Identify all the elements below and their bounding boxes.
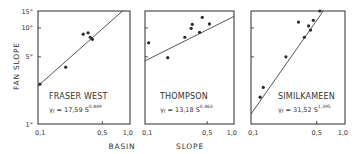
data-point xyxy=(259,96,262,99)
data-point xyxy=(307,24,310,27)
y-tick-label: 10° xyxy=(21,24,33,32)
data-point xyxy=(86,31,89,34)
data-point xyxy=(303,36,306,39)
x-tick-label: 0,5 xyxy=(312,129,322,137)
data-point xyxy=(318,9,321,12)
x-axis-title-slope: SLOPE xyxy=(176,142,204,151)
data-point xyxy=(147,41,150,44)
regression-line xyxy=(141,16,234,63)
panel-title: SIMILKAMEEN xyxy=(278,92,335,101)
data-point xyxy=(208,22,211,25)
panel-thompson: 0,10,51,0THOMPSONγf = 13,18 S0,463 xyxy=(141,11,237,137)
data-point xyxy=(38,83,41,86)
y-tick-label: 15° xyxy=(21,8,33,16)
data-point xyxy=(91,38,94,41)
data-point xyxy=(190,27,193,30)
y-axis-title: FAN SLOPE xyxy=(12,42,21,90)
y-tick-label: 5° xyxy=(26,53,33,61)
x-tick-label: 0,5 xyxy=(97,129,107,137)
panel-similkameen: 0,10,51,0SIMILKAMEENγf = 31,52 S1,395 xyxy=(247,0,348,137)
data-point xyxy=(201,16,204,19)
x-tick-label: 1,0 xyxy=(123,129,133,137)
data-point xyxy=(183,36,186,39)
data-point xyxy=(64,66,67,69)
figure-canvas: 0,10,51,0FRASER WESTγf = 17,59 S0,8490,1… xyxy=(0,0,360,154)
panel-equation: γf = 31,52 S1,395 xyxy=(278,104,331,114)
data-point xyxy=(297,20,300,23)
panel-equation: γf = 13,18 S0,463 xyxy=(160,104,213,114)
regression-line xyxy=(247,0,345,120)
data-point xyxy=(284,55,287,58)
data-point xyxy=(309,28,312,31)
x-axis-title-basin: BASIN xyxy=(109,142,136,151)
x-tick-label: 0,5 xyxy=(202,129,212,137)
y-tick-label: 1° xyxy=(26,121,33,129)
panel-equation: γf = 17,59 S0,849 xyxy=(49,104,102,114)
x-tick-label: 1,0 xyxy=(338,129,348,137)
data-point xyxy=(262,86,265,89)
x-tick-label: 1,0 xyxy=(227,129,237,137)
data-point xyxy=(198,31,201,34)
data-point xyxy=(191,23,194,26)
panel-title: FRASER WEST xyxy=(49,92,108,101)
data-point xyxy=(312,19,315,22)
x-tick-label: 0,1 xyxy=(142,129,152,137)
data-point xyxy=(166,56,169,59)
panel-fraser-west: 0,10,51,0FRASER WESTγf = 17,59 S0,849 xyxy=(34,4,133,137)
regression-line xyxy=(34,4,130,89)
data-point xyxy=(82,33,85,36)
x-tick-label: 0,1 xyxy=(35,129,45,137)
panel-title: THOMPSON xyxy=(159,92,208,101)
x-tick-label: 0,1 xyxy=(248,129,258,137)
